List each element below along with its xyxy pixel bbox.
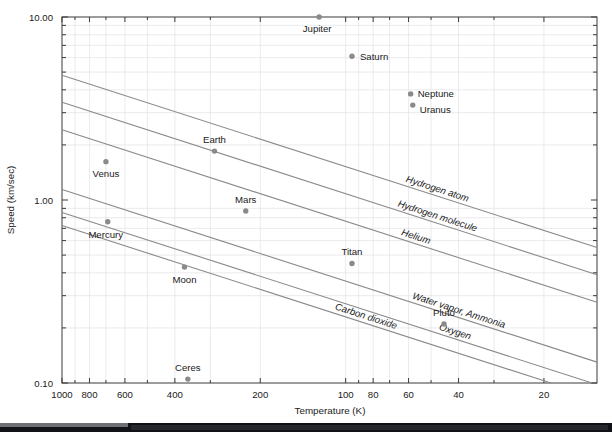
point-label-pluto: Pluto [433, 307, 455, 318]
x-tick-label: 20 [539, 389, 550, 400]
bottom-bar-notch [0, 423, 128, 427]
point-label-mars: Mars [235, 194, 257, 205]
y-tick-label: 0.10 [34, 378, 53, 389]
point-label-moon: Moon [172, 274, 196, 285]
data-point-moon [182, 264, 187, 269]
point-label-titan: Titan [341, 246, 362, 257]
data-point-venus [103, 159, 108, 164]
x-tick-label: 200 [252, 389, 268, 400]
x-tick-label: 80 [368, 389, 379, 400]
x-tick-label: 60 [403, 389, 414, 400]
chart-background [0, 0, 612, 432]
point-label-ceres: Ceres [175, 362, 201, 373]
point-label-uranus: Uranus [420, 104, 451, 115]
point-label-jupiter: Jupiter [303, 23, 333, 34]
y-tick-label: 10.00 [29, 12, 53, 23]
data-point-uranus [410, 102, 415, 107]
y-tick-label: 1.00 [34, 195, 53, 206]
data-point-titan [349, 261, 354, 266]
x-tick-label: 400 [167, 389, 183, 400]
data-point-saturn [349, 54, 354, 59]
x-axis-title: Temperature (K) [295, 405, 366, 416]
y-axis-title: Speed (km/sec) [5, 166, 16, 235]
x-tick-label: 800 [81, 389, 97, 400]
point-label-neptune: Neptune [418, 88, 454, 99]
escape-speed-chart-figure: 100080060040020010080604020 10.001.000.1… [0, 0, 612, 432]
plot-area: 100080060040020010080604020 10.001.000.1… [0, 0, 612, 432]
data-point-neptune [408, 91, 413, 96]
data-point-earth [212, 148, 217, 153]
data-point-jupiter [316, 14, 321, 19]
x-tick-label: 100 [338, 389, 354, 400]
window-bottom-bar [0, 423, 612, 432]
bottom-bar-inner [131, 425, 608, 430]
point-label-mercury: Mercury [88, 229, 123, 240]
data-point-mercury [105, 219, 110, 224]
point-label-earth: Earth [203, 134, 226, 145]
point-label-saturn: Saturn [360, 51, 388, 62]
data-point-ceres [185, 376, 190, 381]
x-tick-label: 40 [453, 389, 464, 400]
data-point-mars [243, 208, 248, 213]
data-point-pluto [441, 321, 446, 326]
x-tick-label: 1000 [51, 389, 72, 400]
x-tick-label: 600 [117, 389, 133, 400]
point-label-venus: Venus [93, 168, 120, 179]
